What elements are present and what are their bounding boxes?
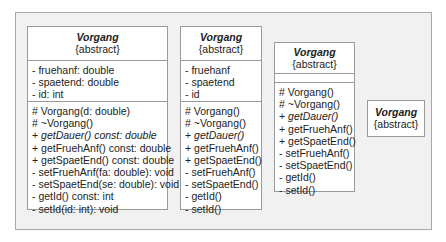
class-name: Vorgang [28, 31, 167, 43]
abstract-operation-name: getDauer() [194, 129, 244, 141]
attribute: - spaetend [185, 76, 258, 88]
operation: + getSpaetEnd() const: double [32, 154, 164, 166]
visibility: + [185, 129, 194, 141]
attribute: - fruehanf: double [32, 64, 164, 76]
class-header: Vorgang {abstract} [28, 27, 167, 61]
class-name: Vorgang [275, 46, 354, 58]
operation: - setId(id: int): void [32, 203, 164, 215]
operations-compartment: # Vorgang() # ~Vorgang() + getDauer() + … [275, 83, 354, 199]
class-stereotype: {abstract} [181, 43, 261, 55]
operation: # Vorgang() [185, 105, 258, 117]
class-box-full: Vorgang {abstract} - fruehanf: double - … [27, 26, 168, 210]
operation-abstract: + getDauer() [185, 129, 258, 141]
operation: # Vorgang(d: double) [32, 105, 164, 117]
operation: - setId() [279, 184, 351, 196]
class-header: Vorgang {abstract} [368, 101, 424, 130]
operation: # Vorgang() [279, 86, 351, 98]
operation: - getId() [185, 190, 258, 202]
operation: - setFruehAnf() [279, 147, 351, 159]
visibility: + [279, 110, 288, 122]
operations-compartment: # Vorgang(d: double) # ~Vorgang() + getD… [28, 102, 167, 218]
class-stereotype: {abstract} [275, 58, 354, 70]
attribute: - id [185, 88, 258, 100]
class-stereotype: {abstract} [28, 43, 167, 55]
operation: - getId() const: int [32, 190, 164, 202]
abstract-operation-name: getDauer() const: double [41, 129, 157, 141]
class-box-names-only: Vorgang {abstract} - fruehanf - spaetend… [180, 26, 262, 210]
operation-abstract: + getDauer() const: double [32, 129, 164, 141]
attributes-compartment-empty [275, 74, 354, 83]
attributes-compartment: - fruehanf - spaetend - id [181, 61, 261, 102]
operation: # ~Vorgang() [185, 117, 258, 129]
operation: - setSpaetEnd() [185, 178, 258, 190]
class-box-no-attributes: Vorgang {abstract} # Vorgang() # ~Vorgan… [274, 42, 355, 192]
class-header: Vorgang {abstract} [275, 43, 354, 74]
attributes-compartment: - fruehanf: double - spaetend: double - … [28, 61, 167, 102]
operation: + getFruehAnf() [279, 123, 351, 135]
attribute: - fruehanf [185, 64, 258, 76]
operation: - setSpaetEnd(se: double): void [32, 178, 164, 190]
class-box-name-only: Vorgang {abstract} [367, 100, 425, 137]
operation: # ~Vorgang() [279, 98, 351, 110]
operation: + getFruehAnf() const: double [32, 142, 164, 154]
abstract-operation-name: getDauer() [288, 110, 338, 122]
operation: - setFruehAnf(fa: double): void [32, 166, 164, 178]
attribute: - spaetend: double [32, 76, 164, 88]
operations-compartment: # Vorgang() # ~Vorgang() + getDauer() + … [181, 102, 261, 218]
operation: + getSpaetEnd() [279, 135, 351, 147]
operation: + getSpaetEnd() [185, 154, 258, 166]
operation: # ~Vorgang() [32, 117, 164, 129]
class-stereotype: {abstract} [368, 118, 424, 130]
class-name: Vorgang [181, 31, 261, 43]
attribute: - id: int [32, 88, 164, 100]
visibility: + [32, 129, 41, 141]
class-header: Vorgang {abstract} [181, 27, 261, 61]
operation: - getId() [279, 171, 351, 183]
operation: - setFruehAnf() [185, 166, 258, 178]
operation-abstract: + getDauer() [279, 110, 351, 122]
operation: + getFruehAnf() [185, 142, 258, 154]
operation: - setId() [185, 203, 258, 215]
class-name: Vorgang [368, 106, 424, 118]
operation: - setSpaetEnd() [279, 159, 351, 171]
